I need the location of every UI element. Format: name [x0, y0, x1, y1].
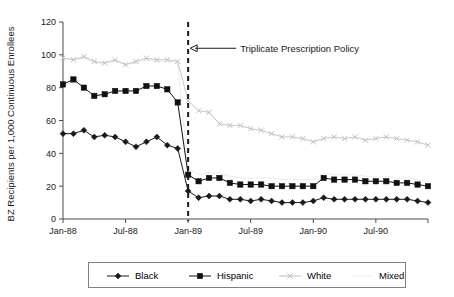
data-point [415, 198, 421, 204]
data-point [81, 127, 87, 133]
data-point [394, 180, 399, 185]
y-tick-label: 60 [46, 116, 56, 126]
data-point [206, 175, 211, 180]
data-point [217, 175, 222, 180]
y-tick-label: 120 [41, 17, 56, 27]
x-tick-label: Jan-90 [300, 226, 328, 236]
data-point [300, 183, 305, 188]
x-tick-label: Jan-89 [174, 226, 202, 236]
y-tick-label: 100 [41, 50, 56, 60]
legend-label: Black [135, 270, 158, 281]
data-point [279, 183, 284, 188]
data-point [383, 196, 389, 202]
data-point [415, 182, 420, 187]
data-point [216, 193, 222, 199]
x-tick-label: Jan-88 [49, 226, 77, 236]
data-point [206, 193, 212, 199]
data-point [425, 200, 431, 206]
data-point [425, 143, 430, 148]
legend-marker-square-icon [197, 273, 202, 278]
data-point [227, 196, 233, 202]
series-layer [60, 54, 431, 206]
data-point [269, 131, 274, 136]
y-axis-ticks: 020406080100120 [41, 17, 63, 224]
legend-item-black: Black [107, 270, 158, 281]
data-point [384, 179, 389, 184]
policy-annotation-label: Triplicate Prescription Policy [240, 43, 359, 54]
data-point [373, 179, 378, 184]
x-tick-label: Jul-89 [238, 226, 263, 236]
y-tick-label: 0 [51, 214, 56, 224]
data-point [133, 88, 138, 93]
line-chart-plot: 020406080100120 Jan-88Jul-88Jan-89Jul-89… [0, 0, 454, 250]
y-tick-label: 80 [46, 83, 56, 93]
data-point [311, 183, 316, 188]
series-white [60, 54, 430, 148]
data-point [425, 183, 430, 188]
data-point [144, 83, 149, 88]
x-tick-label: Jul-88 [113, 226, 138, 236]
data-point [70, 131, 76, 137]
data-point [331, 196, 337, 202]
data-point [238, 182, 243, 187]
data-point [321, 175, 326, 180]
data-point [154, 83, 159, 88]
data-point [112, 88, 117, 93]
y-tick-label: 40 [46, 149, 56, 159]
data-point [60, 82, 65, 87]
data-point [133, 144, 139, 150]
data-point [352, 177, 357, 182]
data-point [311, 139, 316, 144]
legend-content: BlackHispanicWhiteMixed [89, 263, 405, 287]
legend-item-hispanic: Hispanic [189, 270, 254, 281]
data-point [289, 200, 295, 206]
data-point [81, 85, 86, 90]
y-tick-label: 20 [46, 182, 56, 192]
series-mixed [63, 58, 428, 181]
data-point [362, 196, 368, 202]
data-point [404, 180, 409, 185]
data-point [196, 179, 201, 184]
data-point [71, 77, 76, 82]
data-point [279, 200, 285, 206]
data-point [102, 132, 108, 138]
data-point [300, 200, 306, 206]
data-point [248, 182, 253, 187]
legend-item-white: White [279, 270, 331, 281]
data-point [310, 198, 316, 204]
data-point [175, 100, 180, 105]
data-point [404, 196, 410, 202]
legend-item-mixed: Mixed [351, 270, 404, 281]
data-point [258, 196, 264, 202]
data-point [175, 145, 181, 151]
data-point [60, 131, 66, 137]
data-point [91, 134, 97, 140]
data-point [102, 92, 107, 97]
chart-legend: BlackHispanicWhiteMixed [88, 262, 406, 288]
y-axis-title: BZ Recipients per 1,000 Continuous Enrol… [5, 26, 16, 221]
chart-figure: 020406080100120 Jan-88Jul-88Jan-89Jul-89… [0, 0, 454, 297]
x-axis-ticks: Jan-88Jul-88Jan-89Jul-89Jan-90Jul-90 [49, 219, 428, 236]
legend-marker-diamond-icon [115, 273, 121, 279]
data-point [331, 177, 336, 182]
data-point [342, 177, 347, 182]
data-point [143, 139, 149, 145]
data-point [248, 198, 254, 204]
annotation-layer: Triplicate Prescription Policy [188, 22, 359, 221]
data-point [363, 179, 368, 184]
data-point [394, 196, 400, 202]
x-tick-label: Jul-90 [364, 226, 389, 236]
data-point [269, 198, 275, 204]
legend-label: Hispanic [217, 270, 254, 281]
series-hispanic [60, 77, 430, 189]
data-point [227, 180, 232, 185]
data-point [123, 88, 128, 93]
data-point [237, 196, 243, 202]
data-point [321, 195, 327, 201]
data-point [342, 196, 348, 202]
data-point [165, 87, 170, 92]
data-point [258, 182, 263, 187]
data-point [123, 139, 129, 145]
data-point [269, 183, 274, 188]
data-point [352, 196, 358, 202]
